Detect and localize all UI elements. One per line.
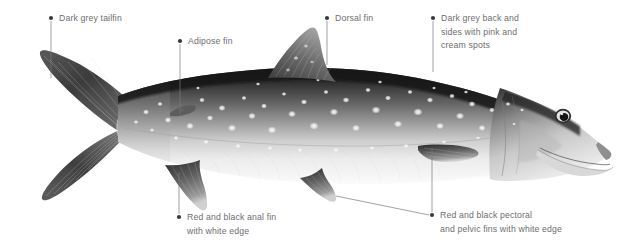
callout-adipose-fin: Adipose fin bbox=[188, 35, 233, 49]
fish-anatomy-figure: Dark grey tailfinAdipose finDorsal finDa… bbox=[0, 0, 628, 250]
callout-dark-grey-tailfin: Dark grey tailfin bbox=[59, 12, 122, 26]
callout-pectoral-pelvic-fins: Red and black pectoral and pelvic fins w… bbox=[440, 209, 562, 236]
callout-dorsal-fin: Dorsal fin bbox=[335, 12, 373, 26]
callout-anal-fin: Red and black anal fin with white edge bbox=[187, 211, 276, 238]
callout-dark-grey-back: Dark grey back and sides with pink and c… bbox=[441, 12, 519, 53]
callout-labels-layer: Dark grey tailfinAdipose finDorsal finDa… bbox=[0, 0, 628, 250]
